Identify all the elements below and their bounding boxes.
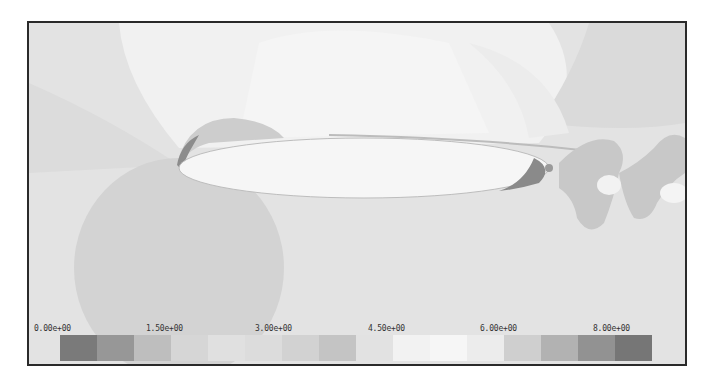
colorbar-bin [541, 335, 578, 361]
colorbar-bin [208, 335, 245, 361]
airfoil-body [179, 138, 549, 198]
colorbar-bin [319, 335, 356, 361]
colorbar-bin [578, 335, 615, 361]
colorbar-bin [356, 335, 393, 361]
colorbar-tick-label: 3.00e+00 [255, 324, 292, 333]
colorbar-tick-label: 8.00e+00 [593, 324, 630, 333]
colorbar-bin [60, 335, 97, 361]
colorbar-bin [282, 335, 319, 361]
colorbar-bin [245, 335, 282, 361]
colorbar-bin [134, 335, 171, 361]
colorbar-tick-label: 4.50e+00 [368, 324, 405, 333]
colorbar-bin [467, 335, 504, 361]
colorbar-bin [97, 335, 134, 361]
colorbar-bin [504, 335, 541, 361]
colorbar-tick-label: 0.00e+00 [34, 324, 71, 333]
colorbar-tick-label: 1.50e+00 [146, 324, 183, 333]
colorbar-bin [615, 335, 652, 361]
colorbar-bin [171, 335, 208, 361]
colorbar-tick-label: 6.00e+00 [480, 324, 517, 333]
colorbar-swatches [60, 335, 652, 361]
colorbar-bin [430, 335, 467, 361]
plot-frame: 0.00e+00 1.50e+00 3.00e+00 4.50e+00 6.00… [27, 21, 687, 366]
contour-field [29, 23, 685, 364]
colorbar-bin [393, 335, 430, 361]
